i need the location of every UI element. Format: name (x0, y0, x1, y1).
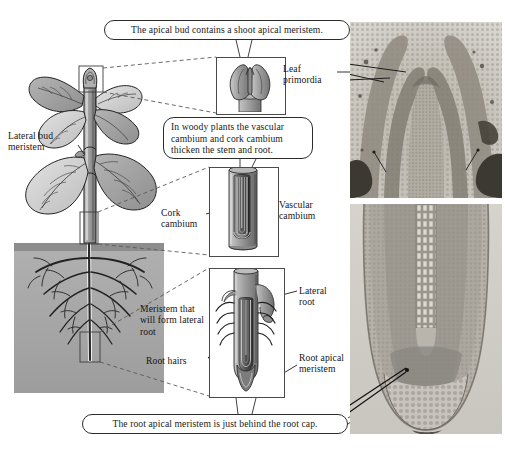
label-root-hairs: Root hairs (146, 355, 208, 366)
shoot-apical-meristem-micrograph (350, 22, 502, 198)
root-tip-detail (209, 268, 285, 398)
apical-bud-detail (216, 57, 286, 115)
label-root-apical-meristem: Root apical meristem (299, 352, 349, 375)
callout-root-cap: The root apical meristem is just behind … (82, 414, 348, 434)
root-apical-meristem-micrograph (350, 204, 502, 434)
stem-cambium-detail (209, 167, 279, 257)
callout-apical-bud: The apical bud contains a shoot apical m… (104, 20, 350, 40)
apical-bud-on-plant (83, 68, 97, 88)
label-lateral-bud-meristem: Lateral bud meristem (8, 130, 80, 153)
callout-woody-cambium: In woody plants the vascular cambium and… (163, 117, 313, 159)
plant-stem (84, 82, 96, 244)
label-cork-cambium: Cork cambium (161, 207, 207, 230)
label-vascular-cambium: Vascular cambium (279, 199, 335, 222)
label-lateral-root: Lateral root (299, 285, 345, 308)
label-leaf-primordia: Leaf primordia (283, 63, 339, 86)
label-meristem-lateral-root: Meristem that will form lateral root (140, 303, 210, 337)
plant-meristem-figure: The apical bud contains a shoot apical m… (0, 0, 505, 451)
